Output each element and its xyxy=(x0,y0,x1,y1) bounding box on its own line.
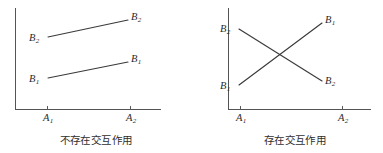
series-label-b1-left: B1 xyxy=(29,74,39,85)
series-label-b2-right: B2 xyxy=(131,12,141,23)
x-axis-label-a2: A2 xyxy=(126,113,136,124)
plot-area-with-interaction xyxy=(191,0,383,120)
series-label-b1-left: B1 xyxy=(220,81,230,92)
panel-caption-with-interaction: 存在交互作用 xyxy=(199,135,383,146)
series-label-b2-left: B2 xyxy=(29,33,39,44)
panel-caption-no-interaction: 不存在交互作用 xyxy=(0,135,192,146)
series-label-b1-right: B1 xyxy=(325,15,335,26)
plot-area-no-interaction xyxy=(0,0,192,120)
x-axis-label-a1: A1 xyxy=(43,113,53,124)
interaction-effect-figure: B2 B2 B1 B1 A1 A2 不存在交互作用 B2 xyxy=(0,0,383,153)
x-axis-label-a2: A2 xyxy=(338,113,348,124)
panel-no-interaction: B2 B2 B1 B1 A1 A2 不存在交互作用 xyxy=(0,0,192,153)
series-line-b2 xyxy=(239,29,322,81)
series-line-b1 xyxy=(239,23,322,85)
panel-with-interaction: B2 B2 B1 B1 A1 A2 存在交互作用 xyxy=(191,0,383,153)
series-label-b2-right: B2 xyxy=(325,76,335,87)
series-line-b2 xyxy=(48,20,128,37)
series-label-b1-right: B1 xyxy=(131,54,141,65)
series-label-b2-left: B2 xyxy=(220,24,230,35)
x-axis-label-a1: A1 xyxy=(236,113,246,124)
series-line-b1 xyxy=(48,62,128,78)
